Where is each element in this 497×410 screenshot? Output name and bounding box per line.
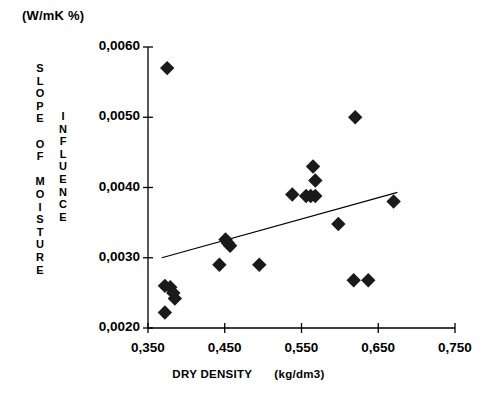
data-point [331,217,345,231]
axes [143,47,455,333]
data-point [346,273,360,287]
data-point-group [158,61,401,320]
trend-line [162,192,398,257]
x-axis-caption-name: DRY DENSITY [172,368,252,380]
data-point [386,194,400,208]
data-point [252,258,266,272]
data-point [285,187,299,201]
data-point [212,258,226,272]
data-point [306,159,320,173]
data-point [348,110,362,124]
plot-area [0,0,497,410]
data-point [158,305,172,319]
data-point [361,273,375,287]
scatter-chart: (W/mK %) SLOPE OF MOISTURE INFLUENCE 0,0… [0,0,497,410]
regression-line [162,192,398,257]
data-point [160,61,174,75]
data-point [308,173,322,187]
x-axis-caption: DRY DENSITY(kg/dm3) [0,368,497,380]
x-axis-caption-unit: (kg/dm3) [274,368,324,380]
